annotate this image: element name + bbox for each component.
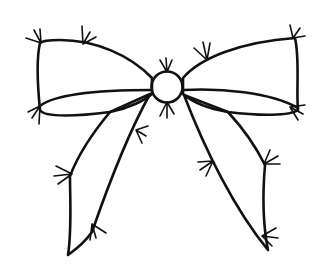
bow-illustration: ribbon bow illustration	[0, 0, 324, 273]
bow-drawing	[0, 0, 324, 273]
left-loop	[38, 40, 152, 116]
center-knot	[152, 72, 183, 103]
left-tail	[68, 94, 150, 255]
right-loop	[183, 38, 298, 115]
right-tail	[184, 95, 268, 250]
